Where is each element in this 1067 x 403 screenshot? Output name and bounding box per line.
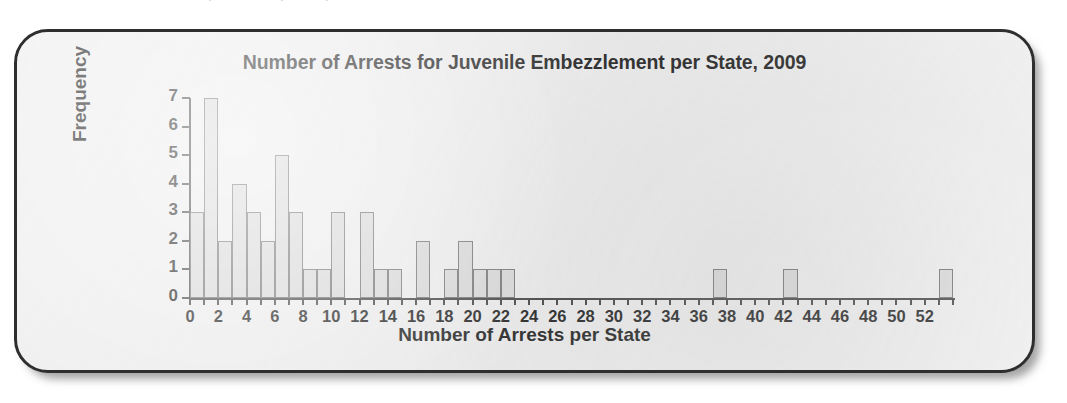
bar-37-38 bbox=[713, 269, 727, 298]
x-tick-mark-52 bbox=[924, 298, 926, 305]
x-tick-label-52: 52 bbox=[916, 308, 934, 325]
bar-5-6 bbox=[261, 241, 275, 298]
x-tick-label-0: 0 bbox=[185, 308, 194, 325]
x-tick-mark-11 bbox=[344, 298, 346, 305]
x-tick-label-6: 6 bbox=[270, 308, 279, 325]
y-tick-mark bbox=[182, 126, 190, 128]
bar-1-2 bbox=[204, 98, 218, 298]
bar-53-54 bbox=[939, 269, 953, 298]
x-tick-mark-19 bbox=[457, 298, 459, 305]
x-tick-mark-10 bbox=[330, 298, 332, 305]
y-tick-label: 3 bbox=[169, 201, 178, 218]
x-tick-label-2: 2 bbox=[214, 308, 223, 325]
x-tick-mark-13 bbox=[373, 298, 375, 305]
x-tick-mark-5 bbox=[260, 298, 262, 305]
x-tick-label-44: 44 bbox=[803, 308, 821, 325]
x-tick-label-10: 10 bbox=[322, 308, 340, 325]
x-tick-mark-27 bbox=[571, 298, 573, 305]
x-tick-mark-45 bbox=[825, 298, 827, 305]
x-tick-mark-29 bbox=[599, 298, 601, 305]
x-tick-mark-3 bbox=[231, 298, 233, 305]
x-tick-label-40: 40 bbox=[746, 308, 764, 325]
x-tick-label-46: 46 bbox=[831, 308, 849, 325]
bar-9-10 bbox=[317, 269, 331, 298]
x-tick-label-16: 16 bbox=[407, 308, 425, 325]
x-tick-mark-40 bbox=[754, 298, 756, 305]
x-tick-label-28: 28 bbox=[576, 308, 594, 325]
x-tick-mark-51 bbox=[910, 298, 912, 305]
x-tick-mark-53 bbox=[938, 298, 940, 305]
y-tick-mark bbox=[182, 211, 190, 213]
x-tick-mark-28 bbox=[585, 298, 587, 305]
bar-7-8 bbox=[289, 212, 303, 298]
x-tick-mark-49 bbox=[881, 298, 883, 305]
x-tick-mark-24 bbox=[528, 298, 530, 305]
y-tick-label: 4 bbox=[169, 173, 178, 190]
figure-card: Number of Arrests for Juvenile Embezzlem… bbox=[14, 29, 1035, 373]
x-tick-mark-12 bbox=[359, 298, 361, 305]
y-tick-mark bbox=[182, 268, 190, 270]
bar-10-11 bbox=[331, 212, 345, 298]
x-tick-mark-41 bbox=[768, 298, 770, 305]
page-edge-artifact bbox=[170, 0, 350, 6]
x-tick-mark-26 bbox=[556, 298, 558, 305]
x-tick-mark-23 bbox=[514, 298, 516, 305]
x-tick-label-50: 50 bbox=[887, 308, 905, 325]
x-tick-mark-39 bbox=[740, 298, 742, 305]
x-tick-mark-38 bbox=[726, 298, 728, 305]
x-tick-label-34: 34 bbox=[661, 308, 679, 325]
x-tick-mark-16 bbox=[415, 298, 417, 305]
bar-8-9 bbox=[303, 269, 317, 298]
x-tick-mark-8 bbox=[302, 298, 304, 305]
bar-2-3 bbox=[218, 241, 232, 298]
x-tick-mark-2 bbox=[217, 298, 219, 305]
x-tick-mark-54 bbox=[952, 298, 954, 305]
bar-6-7 bbox=[275, 155, 289, 298]
y-tick-label: 0 bbox=[169, 287, 178, 304]
x-axis-title: Number of Arrests per State bbox=[17, 324, 1032, 346]
x-tick-label-12: 12 bbox=[350, 308, 368, 325]
x-tick-mark-35 bbox=[684, 298, 686, 305]
x-tick-mark-9 bbox=[316, 298, 318, 305]
bar-0-1 bbox=[190, 212, 204, 298]
x-tick-mark-46 bbox=[839, 298, 841, 305]
x-tick-mark-34 bbox=[669, 298, 671, 305]
x-tick-mark-31 bbox=[627, 298, 629, 305]
bar-18-19 bbox=[444, 269, 458, 298]
x-tick-mark-33 bbox=[655, 298, 657, 305]
y-tick-label: 1 bbox=[169, 258, 178, 275]
x-tick-mark-7 bbox=[288, 298, 290, 305]
bar-3-4 bbox=[232, 184, 246, 298]
y-tick-mark bbox=[182, 154, 190, 156]
bar-22-23 bbox=[501, 269, 515, 298]
x-tick-label-30: 30 bbox=[605, 308, 623, 325]
chart-title: Number of Arrests for Juvenile Embezzlem… bbox=[17, 51, 1032, 74]
x-tick-mark-21 bbox=[486, 298, 488, 305]
x-tick-label-26: 26 bbox=[548, 308, 566, 325]
y-tick-label: 7 bbox=[169, 87, 178, 104]
bar-16-17 bbox=[416, 241, 430, 298]
bar-14-15 bbox=[388, 269, 402, 298]
x-tick-mark-4 bbox=[246, 298, 248, 305]
x-tick-mark-1 bbox=[203, 298, 205, 305]
x-tick-mark-42 bbox=[782, 298, 784, 305]
bar-19-20 bbox=[458, 241, 472, 298]
y-tick-mark bbox=[182, 183, 190, 185]
y-axis-title: Frequency bbox=[69, 46, 91, 142]
x-tick-label-22: 22 bbox=[492, 308, 510, 325]
x-tick-mark-30 bbox=[613, 298, 615, 305]
x-tick-mark-6 bbox=[274, 298, 276, 305]
x-tick-label-18: 18 bbox=[435, 308, 453, 325]
y-tick-label: 5 bbox=[169, 144, 178, 161]
x-tick-label-20: 20 bbox=[463, 308, 481, 325]
y-tick-label: 2 bbox=[169, 230, 178, 247]
x-tick-mark-50 bbox=[895, 298, 897, 305]
bar-20-21 bbox=[473, 269, 487, 298]
x-tick-label-38: 38 bbox=[718, 308, 736, 325]
x-tick-mark-48 bbox=[867, 298, 869, 305]
x-tick-mark-14 bbox=[387, 298, 389, 305]
y-tick-label: 6 bbox=[169, 116, 178, 133]
y-tick-mark bbox=[182, 240, 190, 242]
x-tick-mark-47 bbox=[853, 298, 855, 305]
x-tick-label-4: 4 bbox=[242, 308, 251, 325]
